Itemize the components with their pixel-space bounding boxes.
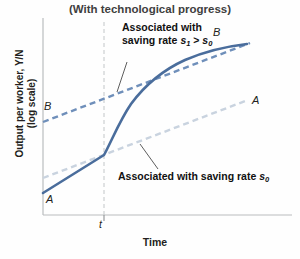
y-axis-label-line2: (log scale) [25,79,36,128]
point-label-a-right: A [252,94,259,106]
annotation-saving-rate-s1: Associated with saving rate s1 > s0 [122,21,222,48]
annotation-s1-subscript-b: 0 [208,39,212,48]
dashed-path-s0 [43,100,248,178]
point-label-a-left: A [46,193,53,205]
annotation-s1-subscript-a: 1 [186,39,190,48]
annotation-s0-text: Associated with saving rate [118,170,259,182]
y-axis-label-line1: Output per worker, Y/N [14,49,25,157]
x-axis-label: Time [105,236,205,248]
annotation-s0-subscript: 0 [265,175,269,184]
chart-figure: (With technological progress) Output per… [0,0,300,259]
leader-line-s0 [140,144,158,169]
leader-line-s1 [117,62,127,92]
annotation-s1-relation: > [190,34,202,46]
point-label-b-left: B [44,100,51,112]
point-label-b-right: B [213,26,220,38]
annotation-saving-rate-s0: Associated with saving rate s0 [118,170,300,185]
dashed-path-s1 [43,43,250,122]
y-axis-label: Output per worker, Y/N (log scale) [14,29,37,179]
x-tick-label-t: t [99,218,102,230]
